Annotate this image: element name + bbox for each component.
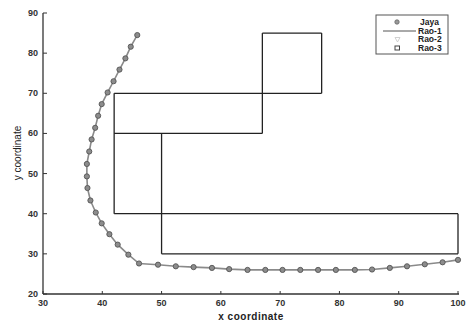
jaya-marker <box>115 242 120 247</box>
y-tick-label: 30 <box>28 249 38 259</box>
x-tick-label: 60 <box>216 298 226 308</box>
jaya-marker <box>315 267 320 272</box>
jaya-marker <box>173 264 178 269</box>
x-tick-label: 70 <box>275 298 285 308</box>
jaya-marker <box>404 264 409 269</box>
rao-1-path <box>114 33 458 254</box>
y-tick-label: 80 <box>28 48 38 58</box>
legend-label-rao-3: Rao-3 <box>418 43 442 53</box>
jaya-marker <box>126 252 131 257</box>
y-tick-label: 60 <box>28 128 38 138</box>
jaya-line <box>87 35 458 270</box>
x-tick-label: 90 <box>394 298 404 308</box>
jaya-marker <box>280 267 285 272</box>
jaya-marker <box>440 260 445 265</box>
legend: Jaya Rao-1 Rao-2 Rao-3 <box>376 15 448 54</box>
x-tick-label: 100 <box>450 298 465 308</box>
jaya-marker <box>123 56 128 61</box>
jaya-marker <box>455 257 460 262</box>
jaya-marker <box>298 267 303 272</box>
jaya-marker <box>245 267 250 272</box>
jaya-marker <box>135 32 140 37</box>
x-tick-label: 80 <box>334 298 344 308</box>
jaya-marker <box>387 265 392 270</box>
jaya-marker <box>96 113 101 118</box>
jaya-marker <box>93 210 98 215</box>
jaya-marker <box>263 267 268 272</box>
y-tick-label: 40 <box>28 209 38 219</box>
y-tick-label: 90 <box>28 8 38 18</box>
jaya-marker <box>155 262 160 267</box>
jaya-marker <box>84 161 89 166</box>
jaya-marker <box>111 79 116 84</box>
jaya-marker <box>85 185 90 190</box>
jaya-marker <box>227 267 232 272</box>
jaya-marker <box>93 125 98 130</box>
y-axis-ticks: 2030405060708090 <box>28 8 47 299</box>
jaya-marker <box>84 174 89 179</box>
jaya-marker <box>105 90 110 95</box>
circle-marker-icon <box>395 20 399 24</box>
x-tick-label: 50 <box>157 298 167 308</box>
y-tick-label: 50 <box>28 169 38 179</box>
y-tick-label: 70 <box>28 88 38 98</box>
y-tick-label: 20 <box>28 289 38 299</box>
jaya-marker <box>209 265 214 270</box>
y-axis-label: y coordinate <box>12 125 23 180</box>
jaya-marker <box>422 262 427 267</box>
jaya-marker <box>87 149 92 154</box>
jaya-marker <box>107 232 112 237</box>
jaya-marker <box>117 67 122 72</box>
jaya-marker <box>333 267 338 272</box>
jaya-marker <box>99 102 104 107</box>
chart-canvas: 30405060708090100 2030405060708090 x coo… <box>0 0 476 328</box>
jaya-marker <box>89 137 94 142</box>
jaya-marker <box>369 267 374 272</box>
jaya-marker <box>136 261 141 266</box>
jaya-marker <box>191 265 196 270</box>
jaya-marker <box>128 44 133 49</box>
jaya-marker <box>99 221 104 226</box>
jaya-marker <box>88 198 93 203</box>
x-tick-label: 40 <box>97 298 107 308</box>
jaya-series <box>84 32 460 272</box>
x-tick-label: 30 <box>38 298 48 308</box>
x-axis-label: x coordinate <box>218 311 283 322</box>
jaya-marker <box>352 267 357 272</box>
